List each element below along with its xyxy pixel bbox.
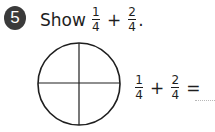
question-number-badge: 5 xyxy=(4,6,26,30)
denominator: 4 xyxy=(171,89,179,101)
prompt-word: Show xyxy=(40,10,86,30)
answer-blank[interactable] xyxy=(195,100,215,101)
plus-operator: + xyxy=(107,10,121,30)
numerator: 1 xyxy=(135,74,143,86)
numerator: 1 xyxy=(92,6,100,18)
denominator: 4 xyxy=(135,89,143,101)
fraction-one-quarter: 1 4 xyxy=(92,6,100,33)
fraction-two-quarters: 2 4 xyxy=(128,6,136,33)
fraction-two-quarters: 2 4 xyxy=(171,74,179,101)
period: . xyxy=(138,10,143,30)
denominator: 4 xyxy=(128,21,136,33)
denominator: 4 xyxy=(92,21,100,33)
numerator: 2 xyxy=(128,6,136,18)
numerator: 2 xyxy=(171,74,179,86)
plus-operator: + xyxy=(150,78,164,98)
answer-equation: 1 4 + 2 4 = xyxy=(133,74,206,101)
question-prompt: Show 1 4 + 2 4 . xyxy=(40,6,144,33)
equals-sign: = xyxy=(186,78,200,98)
fraction-circle-quarters[interactable] xyxy=(36,41,122,127)
fraction-one-quarter: 1 4 xyxy=(135,74,143,101)
